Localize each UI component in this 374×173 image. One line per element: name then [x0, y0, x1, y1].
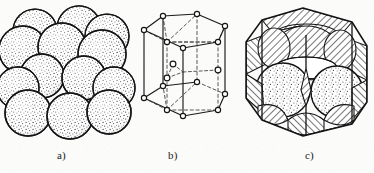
corner-atom — [222, 23, 227, 28]
hcp-structure-figure: a) b) c) — [0, 0, 374, 173]
bottom-face-outline — [144, 82, 225, 116]
corner-atom — [141, 95, 146, 100]
corner-atom — [222, 91, 227, 96]
interior-atom — [164, 75, 170, 81]
interior-atom — [170, 61, 176, 67]
corner-atom — [215, 39, 220, 44]
bottom-center-atom — [164, 107, 169, 112]
panel-a-hard-sphere-packing — [4, 2, 128, 142]
interior-atom — [215, 67, 221, 73]
caption-c: c) — [305, 149, 314, 161]
sphere-layer-bottom-front — [5, 90, 131, 139]
corner-atom — [215, 107, 220, 112]
bottom-face-hidden-edges — [144, 82, 225, 110]
top-center-atom — [164, 39, 169, 44]
corner-atom — [194, 11, 199, 16]
corner-atom — [180, 45, 185, 50]
panel-c-hcp-cell-with-spheres — [240, 2, 372, 142]
corner-atom — [141, 27, 146, 32]
corner-atom — [160, 83, 165, 88]
corner-atom — [194, 79, 199, 84]
top-face-outline — [144, 14, 225, 48]
corner-atom — [180, 113, 185, 118]
top-face-hidden-edges — [144, 14, 225, 42]
caption-a: a) — [57, 149, 66, 161]
caption-b: b) — [168, 149, 178, 161]
prism-vertical-edges — [144, 16, 225, 116]
panel-b-hcp-unit-cell-wireframe — [134, 2, 236, 142]
corner-atom — [160, 13, 165, 18]
